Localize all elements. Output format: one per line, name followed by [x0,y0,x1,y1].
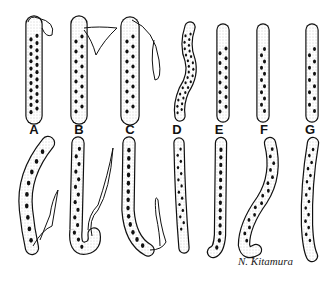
nucleus [29,103,32,107]
nucleus [188,44,190,47]
nucleus [127,189,130,194]
specimen-b-sheath-anterior [84,27,117,55]
nucleus [74,49,77,53]
nucleus [25,204,29,209]
nucleus [35,41,38,45]
nucleus [29,238,33,243]
nucleus [218,238,221,242]
nucleus [263,97,266,101]
nucleus [219,110,222,114]
specimen-c-posterior-body [128,143,148,250]
nucleus [184,47,186,50]
nucleus [192,74,194,77]
nucleus [181,108,183,111]
nucleus [225,105,228,109]
nucleus [188,49,190,52]
nucleus [184,81,186,84]
nucleus [219,193,222,197]
nucleus [74,59,77,63]
nucleus [182,209,184,212]
nucleus [77,162,80,166]
nucleus [187,86,189,89]
nucleus [29,88,32,92]
nucleus [313,72,316,76]
nucleus [308,53,311,57]
nucleus [179,147,181,150]
nucleus [219,61,222,65]
nucleus [263,59,266,63]
nucleus [219,90,222,94]
nucleus [125,109,128,113]
nucleus [219,148,222,152]
nucleus [127,148,130,153]
nucleus [219,223,222,227]
nucleus [219,71,222,75]
nucleus [181,102,183,105]
artist-signature: N. Kitamura [238,255,293,267]
nucleus [225,95,228,99]
nucleus [219,208,222,212]
nucleus [74,79,77,83]
nucleus [27,181,31,186]
nucleus [80,94,83,98]
label-c: C [125,122,134,137]
nucleus [179,92,181,95]
label-e: E [215,122,224,137]
nucleus [80,74,83,78]
nucleus [245,239,248,243]
nucleus [183,41,185,44]
nucleus [309,174,312,178]
nucleus [178,191,180,194]
nucleus [188,70,190,73]
nucleus [80,104,83,108]
nucleus [80,54,83,58]
nucleus [73,215,76,219]
nucleus [308,90,311,94]
label-b: B [74,122,83,137]
nucleus [126,206,129,211]
nucleus [177,178,179,181]
nucleus [308,103,311,107]
specimen-c-sheath-posterior [150,198,166,250]
nucleus [35,77,38,81]
nucleus [29,81,32,85]
nucleus [219,201,222,205]
nucleus [184,34,186,37]
nucleus [77,177,80,181]
nucleus [188,65,190,68]
nucleus [263,72,266,76]
nucleus [74,69,77,73]
nucleus [77,192,80,196]
nucleus [184,91,186,94]
nucleus [190,80,192,83]
nucleus [181,197,183,200]
nucleus [131,84,134,88]
nucleus [29,52,32,56]
nucleus [219,170,222,174]
nucleus [29,66,32,70]
nucleus [307,167,310,171]
nucleus [190,55,192,58]
nucleus [135,237,138,242]
nucleus [254,205,257,209]
nucleus [176,105,178,108]
nucleus [35,48,38,52]
nucleus [305,193,308,197]
nucleus [267,189,270,193]
label-f: F [260,122,268,137]
nucleus [74,200,77,204]
nucleus [29,110,32,114]
nucleus [35,159,39,164]
nucleus [178,203,180,206]
nucleus [225,76,228,80]
nucleus [309,239,312,243]
specimen-f-posterior-body [244,143,273,252]
microfilariae-illustration: A B C D E F G N. Kitamura [0,0,331,281]
nucleus [312,148,315,152]
nucleus [131,54,134,58]
label-g: G [305,122,315,137]
nucleus [310,161,313,165]
nucleus [307,213,310,217]
nucleus [308,154,311,158]
nucleus [74,185,77,189]
